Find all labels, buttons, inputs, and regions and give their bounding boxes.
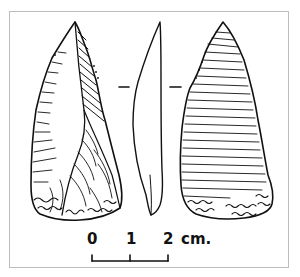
scale-unit: cm.: [181, 232, 211, 247]
artifact-face-b: [180, 22, 272, 219]
scale-bar: [92, 255, 168, 261]
artifact-profile: [133, 22, 163, 215]
scale-labels: 0 1 2 cm.: [0, 232, 300, 252]
scale-tick-1: 1: [126, 232, 136, 247]
scale-tick-0: 0: [87, 232, 97, 247]
scale-tick-2: 2: [163, 232, 173, 247]
artifact-face-a: [31, 22, 122, 220]
